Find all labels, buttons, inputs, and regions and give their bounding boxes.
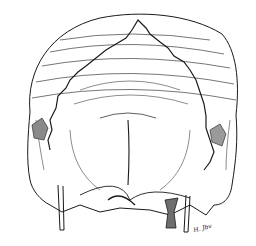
skull-drawing	[0, 0, 256, 246]
skull-illustration: H. Jbv	[0, 0, 256, 246]
